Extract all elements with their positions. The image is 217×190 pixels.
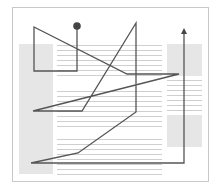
- left-sidebar-block: [19, 44, 53, 174]
- path-start-dot-icon: [73, 22, 81, 30]
- reading-path-diagram: [0, 0, 217, 190]
